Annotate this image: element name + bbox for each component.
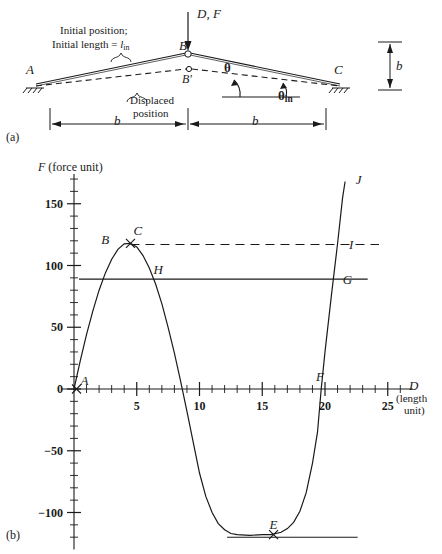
note-displaced-line1: Displaced — [130, 94, 174, 106]
annotation-label-g: G — [343, 272, 353, 287]
node-label-a: A — [26, 62, 34, 78]
y-axis-unit: (force unit) — [48, 160, 102, 174]
annotation-label-f: F — [315, 369, 325, 384]
annotation-label-i: I — [348, 237, 354, 252]
y-tick-label: 50 — [51, 320, 63, 334]
annotation-label-j: J — [356, 172, 363, 187]
dim-label-b-vertical: b — [396, 58, 403, 74]
note-initial-position-line1: Initial position; — [60, 24, 128, 36]
x-axis-unit-line1: (length — [396, 392, 427, 404]
angle-label-theta-in: θin — [278, 88, 293, 104]
member-bc-initial — [190, 53, 340, 84]
x-tick-label: 10 — [194, 399, 206, 413]
annotation-label-h: H — [153, 262, 164, 277]
angle-label-theta: θ — [224, 60, 231, 76]
panel-a-diagram — [0, 0, 442, 150]
load-label: D, F — [197, 6, 221, 22]
x-tick-label: 5 — [134, 399, 140, 413]
x-tick-label: 25 — [382, 399, 394, 413]
member-ab-initial — [36, 53, 186, 84]
dim-label-b-right: b — [252, 113, 259, 129]
node-label-c: C — [334, 62, 343, 78]
support-c — [329, 88, 350, 93]
y-tick-label: 100 — [45, 259, 63, 273]
annotation-label-b: B — [101, 232, 109, 247]
node-label-b-prime: B′ — [182, 72, 192, 87]
figure-snap-through-truss: Initial position; Initial length = lin D… — [0, 0, 442, 554]
panel-b-caption: (b) — [6, 528, 20, 543]
dimension-b-horizontal — [50, 108, 326, 130]
x-tick-label: 20 — [319, 399, 331, 413]
annotation-label-c: C — [133, 223, 142, 238]
member-ab-displaced — [36, 69, 186, 86]
member-bc-displaced — [192, 69, 340, 86]
panel-a-caption: (a) — [6, 130, 19, 145]
theta-subscript: in — [285, 94, 293, 104]
annotation-label-a: A — [80, 373, 89, 388]
node-label-b: B — [179, 38, 187, 54]
y-tick-label: 0 — [57, 382, 63, 396]
note-initial-position-line2: Initial length = lin — [52, 38, 129, 52]
note-displaced-line2: position — [133, 107, 168, 119]
x-axis-unit-line2: unit) — [404, 404, 425, 416]
theta-symbol: θ — [278, 88, 285, 103]
x-tick-label: 15 — [256, 399, 268, 413]
note-initial-length-text: Initial length = — [52, 38, 120, 50]
pin-node-b-prime — [186, 66, 191, 71]
leader-initial-position — [111, 53, 131, 62]
support-a — [23, 88, 44, 93]
panel-b-chart: −100−50050100150510152025ABCHEFGIJ — [0, 150, 442, 554]
member-ab-initial-2 — [36, 55, 186, 86]
y-axis-label: F (force unit) — [38, 160, 103, 175]
y-tick-label: 150 — [45, 197, 63, 211]
y-axis-symbol: F — [38, 160, 45, 174]
y-tick-label: −100 — [38, 506, 63, 520]
symbol-l-subscript: in — [123, 43, 129, 52]
dim-label-b-left: b — [114, 113, 121, 129]
annotation-label-e: E — [269, 517, 278, 532]
y-tick-label: −50 — [44, 444, 63, 458]
curve-force-displacement — [74, 182, 345, 536]
member-bc-initial-2 — [190, 55, 340, 86]
